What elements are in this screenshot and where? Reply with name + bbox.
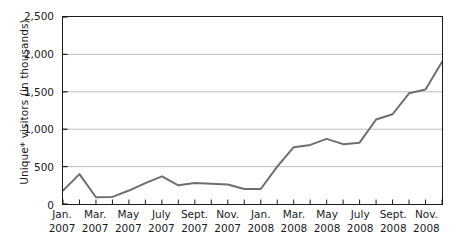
x-axis-tick-labels: Jan.2007Mar.2007May2007July2007Sept.2007… xyxy=(0,208,459,248)
x-tick-label: Nov.2008 xyxy=(398,208,454,235)
plot-area xyxy=(62,16,443,205)
line-chart-svg xyxy=(63,17,442,204)
chart-container: Unique* visitors (in thousands) 05001,00… xyxy=(0,0,459,248)
x-tick-year: 2008 xyxy=(398,222,454,236)
y-tick-label: 2,000 xyxy=(8,48,54,60)
y-tick-label: 1,500 xyxy=(8,86,54,98)
y-tick-label: 500 xyxy=(8,161,54,173)
y-tick-label: 2,500 xyxy=(8,10,54,22)
y-tick-label: 1,000 xyxy=(8,123,54,135)
x-tick-month: Nov. xyxy=(398,208,454,222)
